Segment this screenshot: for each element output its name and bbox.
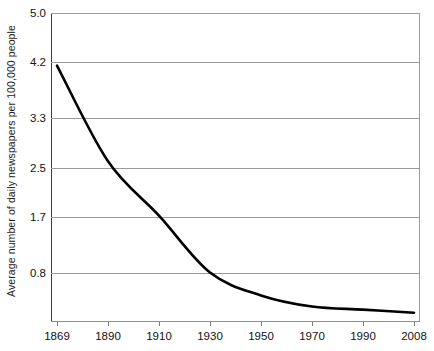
x-axis-tick-labels: 18691890191019301950197019902008: [0, 330, 434, 351]
x-axis-tickmark: [261, 322, 262, 326]
y-axis-tick-label: 4.2: [5, 56, 51, 68]
y-axis-tick-label: 1.7: [5, 211, 51, 223]
x-axis-tick-label: 1950: [248, 330, 274, 342]
x-axis-tick-label: 1890: [95, 330, 121, 342]
x-axis-tick-label: 2008: [401, 330, 427, 342]
x-axis-tickmark: [414, 322, 415, 326]
x-axis-tickmark: [210, 322, 211, 326]
y-axis-tick-label: 5.0: [5, 7, 51, 19]
chart-figure: Average number of daily newspapers per 1…: [0, 0, 434, 351]
x-axis-tick-label: 1990: [350, 330, 376, 342]
series-path: [57, 66, 414, 313]
y-axis-tick-label: 2.5: [5, 162, 51, 174]
x-axis-tickmark: [108, 322, 109, 326]
x-axis-tickmark: [312, 322, 313, 326]
x-axis-tickmark: [57, 322, 58, 326]
x-axis-tickmark: [363, 322, 364, 326]
x-axis-tick-label: 1910: [146, 330, 172, 342]
x-axis-tick-label: 1970: [299, 330, 325, 342]
x-axis-tickmark: [159, 322, 160, 326]
y-axis-tick-label: 3.3: [5, 112, 51, 124]
data-series-line: [51, 13, 420, 322]
x-axis-tick-label: 1930: [197, 330, 223, 342]
x-axis-tick-label: 1869: [44, 330, 70, 342]
y-axis-tick-labels: 5.04.23.32.51.70.8: [0, 0, 51, 351]
y-axis-tick-label: 0.8: [5, 267, 51, 279]
plot-area: [51, 13, 420, 322]
